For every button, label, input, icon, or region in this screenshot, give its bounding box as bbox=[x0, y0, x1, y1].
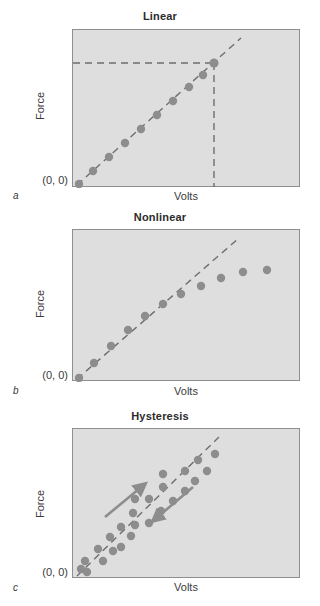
panel-nonlinear-origin-label: (0, 0) bbox=[24, 369, 68, 381]
data-point bbox=[203, 467, 211, 475]
measured-data-points bbox=[75, 266, 271, 382]
data-point bbox=[159, 470, 167, 478]
data-point bbox=[145, 519, 153, 527]
data-point bbox=[75, 180, 83, 188]
data-point bbox=[209, 58, 218, 67]
panel-hysteresis-y-axis-label: Force bbox=[34, 484, 46, 524]
panel-nonlinear-plot-area bbox=[72, 229, 300, 381]
panel-nonlinear-plot-svg bbox=[73, 230, 301, 382]
panel-nonlinear: Nonlinear bbox=[0, 200, 320, 400]
unloading-data-points bbox=[83, 467, 211, 576]
panel-hysteresis-plot-svg bbox=[73, 429, 301, 579]
panel-linear: Linear bbox=[0, 0, 320, 200]
data-point bbox=[197, 282, 205, 290]
panel-linear-origin-label: (0, 0) bbox=[24, 174, 68, 186]
data-point bbox=[105, 153, 113, 161]
data-point bbox=[191, 477, 199, 485]
panel-letter-c: c bbox=[13, 582, 18, 593]
data-point bbox=[137, 125, 145, 133]
data-point bbox=[181, 467, 189, 475]
panel-linear-plot-svg bbox=[73, 30, 301, 188]
panel-hysteresis-x-axis-label: Volts bbox=[72, 581, 300, 593]
data-point bbox=[159, 483, 167, 491]
data-point bbox=[107, 342, 115, 350]
data-point bbox=[153, 111, 161, 119]
panel-hysteresis-plot-area bbox=[72, 428, 300, 578]
panel-linear-title: Linear bbox=[0, 10, 320, 22]
data-point bbox=[75, 374, 83, 382]
data-point bbox=[169, 97, 177, 105]
panel-nonlinear-title: Nonlinear bbox=[0, 211, 320, 223]
data-point bbox=[263, 266, 271, 274]
data-point bbox=[121, 139, 129, 147]
panel-letter-b: b bbox=[13, 385, 19, 396]
data-point bbox=[211, 450, 219, 458]
data-point bbox=[185, 83, 193, 91]
data-point bbox=[94, 545, 102, 553]
panel-linear-plot-area bbox=[72, 29, 300, 187]
data-point bbox=[145, 495, 153, 503]
panel-nonlinear-x-axis-label: Volts bbox=[72, 385, 300, 397]
data-point bbox=[141, 312, 149, 320]
data-point bbox=[124, 326, 132, 334]
data-point bbox=[117, 543, 125, 551]
panel-hysteresis-title: Hysteresis bbox=[0, 410, 320, 422]
ideal-linear-reference-line bbox=[77, 238, 239, 379]
data-point bbox=[129, 509, 137, 517]
data-point bbox=[217, 274, 225, 282]
data-point bbox=[81, 557, 89, 565]
data-point bbox=[127, 532, 135, 540]
unloading-arrow bbox=[153, 487, 193, 521]
data-point bbox=[131, 521, 139, 529]
data-point bbox=[159, 300, 167, 308]
data-point bbox=[106, 533, 114, 541]
loading-arrow bbox=[105, 484, 145, 517]
data-point bbox=[109, 547, 117, 555]
panel-hysteresis: Hysteresis bbox=[0, 400, 320, 606]
panel-linear-y-axis-label: Force bbox=[34, 86, 46, 126]
data-point bbox=[117, 523, 125, 531]
data-point bbox=[90, 359, 98, 367]
data-point bbox=[83, 568, 91, 576]
data-point bbox=[199, 71, 207, 79]
data-point bbox=[99, 557, 107, 565]
data-point bbox=[239, 268, 247, 276]
data-point bbox=[194, 456, 202, 464]
data-point bbox=[177, 290, 185, 298]
panel-hysteresis-origin-label: (0, 0) bbox=[24, 566, 68, 578]
panel-nonlinear-y-axis-label: Force bbox=[34, 284, 46, 324]
transducer-response-figure: Linear bbox=[0, 0, 320, 606]
data-point bbox=[89, 167, 97, 175]
